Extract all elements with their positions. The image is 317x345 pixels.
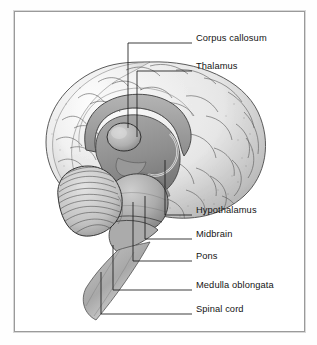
label-medulla-oblongata: Medulla oblongata (196, 281, 274, 290)
label-thalamus: Thalamus (196, 62, 238, 71)
label-midbrain: Midbrain (196, 230, 232, 239)
diagram-canvas: Corpus callosum Thalamus Hypothalamus Mi… (0, 0, 317, 345)
label-corpus-callosum: Corpus callosum (196, 34, 267, 43)
label-hypothalamus: Hypothalamus (196, 206, 257, 215)
label-pons: Pons (196, 252, 218, 261)
label-spinal-cord: Spinal cord (196, 305, 244, 314)
